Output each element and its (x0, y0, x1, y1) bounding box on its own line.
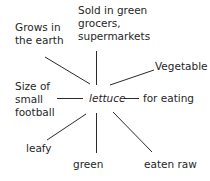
node-sold-in-green-grocers: Sold in green grocers, supermarkets (78, 4, 150, 43)
spider-diagram: Grows in the earth Sold in green grocers… (0, 0, 210, 181)
node-leafy: leafy (26, 142, 52, 155)
connector-vegetable (110, 70, 154, 85)
node-size-of-football: Size of small football (15, 80, 55, 119)
connector-raw (113, 112, 152, 152)
center-node-lettuce: lettuce (89, 92, 126, 105)
node-grows-in-earth: Grows in the earth (15, 21, 64, 47)
node-green: green (73, 158, 103, 171)
node-eaten-raw: eaten raw (144, 158, 197, 171)
node-vegetable: Vegetable (155, 60, 208, 73)
node-for-eating: for eating (143, 92, 194, 105)
